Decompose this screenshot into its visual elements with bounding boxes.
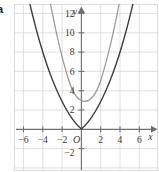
y-axis (78, 7, 85, 171)
y-tick-label: 4 (70, 85, 75, 96)
figure-root: a (0, 0, 159, 172)
y-axis-arrow (78, 7, 85, 14)
gray-parabola-curve (51, 5, 119, 102)
y-axis-label: y (72, 6, 78, 17)
x-tick-label: 2 (98, 134, 103, 145)
y-tick-label: 8 (70, 46, 75, 57)
y-tick-label: 2 (70, 104, 75, 115)
x-tick-label: −2 (57, 134, 67, 145)
item-label: a (0, 3, 8, 16)
x-tick-label: 4 (118, 134, 123, 145)
x-axis-label: x (147, 131, 153, 142)
origin-label: O (73, 134, 80, 145)
x-tick-label: −4 (38, 134, 48, 145)
y-tick-label: 6 (70, 66, 75, 77)
x-tick-labels: −6 −4 −2 2 4 6 (18, 134, 142, 145)
coordinate-plane-plot: −6 −4 −2 2 4 6 −2 2 4 6 8 10 12 O x y (14, 4, 158, 171)
x-axis (16, 126, 158, 133)
x-tick-label: −6 (18, 134, 28, 145)
y-tick-label: −2 (64, 147, 74, 158)
x-tick-label: 6 (137, 134, 142, 145)
plot-svg: −6 −4 −2 2 4 6 −2 2 4 6 8 10 12 O x y (14, 4, 158, 171)
y-tick-label: 10 (65, 27, 75, 38)
